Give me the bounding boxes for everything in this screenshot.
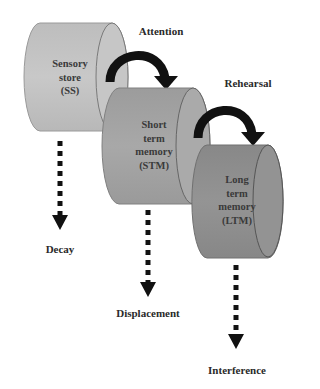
stm-line-1: Short — [124, 118, 184, 132]
displacement-label: Displacement — [108, 307, 188, 320]
ltm-line-2: term — [210, 187, 264, 201]
stm-line-2: term — [124, 132, 184, 146]
decay-label: Decay — [38, 243, 82, 256]
ltm-line-3: memory — [210, 200, 264, 214]
sensory-store-line-2: store — [42, 71, 98, 85]
decay-arrow-icon — [52, 141, 68, 230]
sensory-store-line-1: Sensory — [42, 57, 98, 71]
interference-label: Interference — [200, 364, 274, 377]
ltm-line-1: Long — [210, 173, 264, 187]
displacement-arrow-icon — [140, 210, 156, 297]
sensory-store-line-3: (SS) — [42, 84, 98, 98]
attention-label: Attention — [135, 25, 187, 38]
interference-arrow-icon — [228, 265, 244, 349]
stm-line-4: (STM) — [124, 159, 184, 173]
sensory-store-label: Sensory store (SS) — [42, 57, 98, 98]
rehearsal-label: Rehearsal — [220, 77, 276, 90]
long-term-memory-label: Long term memory (LTM) — [210, 173, 264, 227]
ltm-line-4: (LTM) — [210, 214, 264, 228]
stm-line-3: memory — [124, 145, 184, 159]
short-term-memory-label: Short term memory (STM) — [124, 118, 184, 172]
